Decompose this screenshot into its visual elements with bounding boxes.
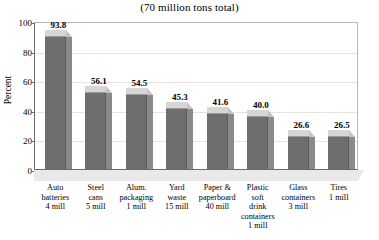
gridline	[35, 53, 357, 54]
gridline	[35, 112, 357, 113]
bar-side-face	[309, 137, 315, 169]
bar[interactable]	[166, 102, 187, 169]
x-tick-label: Tires1 mill	[313, 183, 366, 202]
bar-side-face	[187, 109, 193, 169]
bar[interactable]	[247, 110, 268, 169]
bar[interactable]	[45, 30, 66, 169]
y-tick-mark	[32, 53, 35, 54]
bar-value-label: 93.8	[39, 20, 78, 30]
bar-side-face	[228, 114, 234, 169]
bar-value-label: 54.5	[120, 78, 159, 88]
y-tick-label: 0	[6, 166, 32, 176]
bar-top-face	[328, 130, 349, 137]
bar-top-bevel	[147, 88, 153, 95]
bar[interactable]	[328, 130, 349, 169]
bar-top-bevel	[66, 30, 72, 37]
y-tick-label: 80	[6, 48, 32, 58]
bar[interactable]	[207, 107, 228, 169]
bar[interactable]	[126, 88, 147, 169]
plot-area: 020406080100 93.856.154.545.341.640.026.…	[34, 22, 358, 170]
bar-front-face	[126, 88, 147, 169]
chart-floor-edge	[358, 170, 364, 181]
bar-value-label: 56.1	[79, 76, 118, 86]
x-tick-label-line: 3 mill	[272, 202, 325, 212]
y-tick-mark	[32, 141, 35, 142]
bar-value-label: 26.6	[282, 120, 321, 130]
bar-side-face	[268, 117, 274, 169]
bar-front-face	[247, 110, 268, 169]
bar-top-face	[85, 86, 106, 93]
bar-top-bevel	[349, 130, 355, 137]
bar-top-bevel	[187, 102, 193, 109]
bar-value-label: 41.6	[201, 97, 240, 107]
y-tick-label: 100	[6, 18, 32, 28]
bar-top-bevel	[268, 110, 274, 117]
y-tick-label: 40	[6, 107, 32, 117]
bar-top-face	[207, 107, 228, 114]
chart-floor	[34, 170, 364, 181]
y-tick-mark	[32, 23, 35, 24]
x-tick-label-line: containers	[232, 212, 285, 222]
bar-top-face	[288, 130, 309, 137]
bar-top-bevel	[228, 107, 234, 114]
y-tick-mark	[32, 82, 35, 83]
bar-side-face	[147, 95, 153, 169]
bar-front-face	[166, 102, 187, 169]
bar[interactable]	[288, 130, 309, 169]
bar-value-label: 45.3	[160, 92, 199, 102]
y-tick-mark	[32, 112, 35, 113]
bar-side-face	[106, 93, 112, 169]
bar-top-face	[126, 88, 147, 95]
bar[interactable]	[85, 86, 106, 169]
bar-top-face	[247, 110, 268, 117]
bar-top-face	[45, 30, 66, 37]
y-tick-label: 20	[6, 136, 32, 146]
y-tick-label: 60	[6, 77, 32, 87]
bar-front-face	[207, 107, 228, 169]
chart-title: (70 million tons total)	[0, 1, 379, 13]
bar-value-label: 26.5	[322, 120, 361, 130]
bar-front-face	[85, 86, 106, 169]
bar-top-face	[166, 102, 187, 109]
x-tick-label-line: 1 mill	[232, 221, 285, 231]
bar-top-bevel	[106, 86, 112, 93]
chart-floor-top	[34, 170, 358, 181]
x-tick-label-line: Tires	[313, 183, 366, 193]
x-tick-label-line: 1 mill	[313, 193, 366, 203]
bar-side-face	[349, 137, 355, 169]
bar-side-face	[66, 37, 72, 169]
bar-value-label: 40.0	[241, 100, 280, 110]
chart-page: (70 million tons total) Percent 02040608…	[0, 0, 379, 240]
bar-front-face	[45, 30, 66, 169]
bar-top-bevel	[309, 130, 315, 137]
